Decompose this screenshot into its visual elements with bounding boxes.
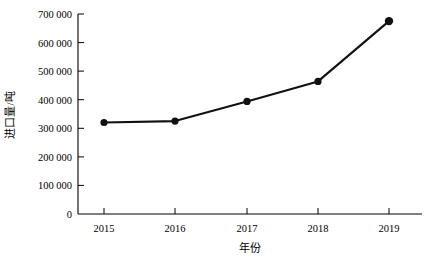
data-point-2017: [243, 98, 250, 105]
y-tick-label: 300 000: [38, 123, 72, 134]
x-tick-label: 2017: [237, 223, 258, 234]
data-point-2016: [171, 118, 178, 125]
x-axis-tick-labels: 2015 2016 2017 2018 2019: [94, 223, 400, 234]
data-point-2019: [385, 17, 393, 25]
y-tick-label: 400 000: [38, 95, 72, 106]
data-point-2018: [314, 78, 321, 85]
y-tick-label: 700 000: [38, 9, 72, 20]
x-tick-label: 2019: [379, 223, 400, 234]
y-tick-label: 500 000: [38, 66, 72, 77]
y-tick-label: 600 000: [38, 38, 72, 49]
x-tick-label: 2016: [165, 223, 186, 234]
x-tick-label: 2015: [94, 223, 115, 234]
y-tick-label: 0: [67, 209, 72, 220]
y-tick-label: 200 000: [38, 152, 72, 163]
import-volume-line-chart: 700 000 600 000 500 000 400 000 300 000 …: [0, 0, 427, 263]
plot-area-background: [78, 14, 422, 214]
x-tick-label: 2018: [308, 223, 329, 234]
data-point-2015: [100, 119, 107, 126]
y-tick-label: 100 000: [38, 180, 72, 191]
x-axis-title: 年份: [239, 241, 261, 254]
chart-container: 700 000 600 000 500 000 400 000 300 000 …: [0, 0, 427, 263]
y-axis-title: 进口量/吨: [4, 91, 16, 138]
y-axis-tick-labels: 700 000 600 000 500 000 400 000 300 000 …: [38, 9, 72, 220]
